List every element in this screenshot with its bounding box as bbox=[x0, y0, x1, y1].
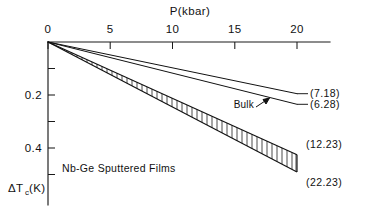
x-tick-label-10: 10 bbox=[166, 23, 180, 35]
y-axis-title-main: ΔT bbox=[8, 182, 24, 194]
series-label-12-23: (12.23) bbox=[306, 138, 342, 150]
y-tick-label-0-4: 0.4 bbox=[25, 142, 42, 154]
plot-caption: Nb-Ge Sputtered Films bbox=[62, 162, 176, 174]
x-tick-label-15: 15 bbox=[228, 23, 242, 35]
y-axis-title: ΔT c (K) bbox=[8, 182, 46, 197]
x-tick-label-20: 20 bbox=[290, 23, 304, 35]
bulk-annotation-label: Bulk bbox=[234, 99, 255, 110]
x-tick-label-0: 0 bbox=[45, 23, 52, 35]
x-tick-label-5: 5 bbox=[107, 23, 114, 35]
y-tick-marks bbox=[48, 69, 55, 175]
series-label-22-23: (22.23) bbox=[306, 176, 342, 188]
y-tick-label-0-2: 0.2 bbox=[25, 89, 42, 101]
figure-container: 0 5 10 15 20 P(kbar) 0.2 0.4 ΔT c (K) bbox=[0, 0, 366, 210]
chart-svg: 0 5 10 15 20 P(kbar) 0.2 0.4 ΔT c (K) bbox=[0, 0, 366, 210]
series-line-12-23 bbox=[48, 42, 297, 155]
shaded-band-hatching bbox=[57, 30, 296, 200]
series-label-6-28: (6.28) bbox=[310, 98, 340, 110]
series-line-22-23 bbox=[48, 42, 297, 172]
series-line-6-28 bbox=[48, 42, 297, 104]
x-tick-marks bbox=[48, 42, 297, 49]
series-line-7-18 bbox=[48, 42, 297, 94]
y-axis-title-unit: (K) bbox=[29, 182, 46, 194]
x-axis-title: P(kbar) bbox=[170, 5, 211, 17]
bulk-arrow-icon bbox=[256, 98, 270, 107]
